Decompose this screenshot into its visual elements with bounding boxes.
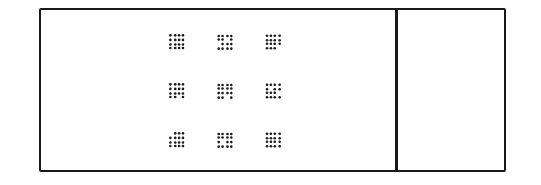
dot [174, 47, 177, 50]
dot [169, 83, 172, 86]
dot-pattern-r2-c0 [168, 131, 186, 149]
dot [266, 91, 269, 94]
dot [217, 92, 220, 95]
dot [266, 96, 269, 99]
dot [273, 47, 276, 50]
dot [226, 43, 229, 46]
dot [230, 84, 233, 87]
dot [278, 83, 281, 86]
dot-pattern-r0-c2 [264, 33, 282, 51]
dot [230, 47, 233, 50]
dot [221, 38, 224, 41]
dot [230, 145, 233, 148]
dot [174, 39, 177, 42]
dot [178, 43, 181, 46]
dot [226, 133, 229, 136]
dot [182, 96, 185, 99]
dot [182, 83, 185, 86]
dot [266, 39, 269, 42]
dot [182, 88, 185, 91]
dot [169, 96, 172, 99]
dot [266, 42, 269, 45]
dot [230, 43, 233, 46]
dot [226, 47, 229, 50]
dot [178, 132, 181, 135]
dot [217, 84, 220, 87]
dot [178, 88, 181, 91]
dot [270, 145, 273, 148]
dot [174, 141, 177, 144]
dot [273, 91, 276, 94]
dot [230, 96, 233, 99]
dot [266, 47, 269, 50]
dot [174, 92, 177, 95]
dot [217, 47, 220, 50]
dot-pattern-r1-c0 [168, 82, 186, 100]
dot [182, 137, 185, 140]
dot-pattern-r1-c1 [216, 82, 234, 100]
dot [278, 39, 281, 42]
dot [226, 35, 229, 38]
dot [273, 145, 276, 148]
dot [266, 83, 269, 86]
dot [221, 136, 224, 139]
dot [182, 145, 185, 148]
dot [178, 141, 181, 144]
dot [278, 34, 281, 37]
dot [182, 141, 185, 144]
dot [217, 145, 220, 148]
dot [226, 141, 229, 144]
dot [278, 140, 281, 143]
dot [273, 83, 276, 86]
dot [221, 47, 224, 50]
dot [217, 133, 220, 136]
dot [169, 92, 172, 95]
dot [182, 92, 185, 95]
dot [226, 87, 229, 90]
dot [169, 137, 172, 140]
dot [221, 96, 224, 99]
dot [230, 133, 233, 136]
dot [278, 88, 281, 91]
dot [221, 133, 224, 136]
dot [230, 35, 233, 38]
dot [182, 132, 185, 135]
dot [169, 88, 172, 91]
dot [230, 38, 233, 41]
dot [217, 141, 220, 144]
dot [278, 42, 281, 45]
dot [174, 43, 177, 46]
dot [221, 84, 224, 87]
dot [230, 141, 233, 144]
dot [182, 34, 185, 37]
dot [178, 39, 181, 42]
dot [174, 132, 177, 135]
dot [270, 42, 273, 45]
dot [266, 132, 269, 135]
dot [174, 34, 177, 37]
dot [217, 35, 220, 38]
dot [270, 137, 273, 140]
dot [273, 88, 276, 91]
dot [178, 47, 181, 50]
dot [226, 92, 229, 95]
dot [169, 34, 172, 37]
dot [226, 84, 229, 87]
dot [273, 34, 276, 37]
dot [221, 87, 224, 90]
dot [169, 145, 172, 148]
dot [270, 83, 273, 86]
dot [182, 47, 185, 50]
dot [174, 96, 177, 99]
dot [270, 91, 273, 94]
dot [273, 39, 276, 42]
dot [221, 43, 224, 46]
dot [226, 136, 229, 139]
dot [266, 88, 269, 91]
dot [169, 141, 172, 144]
dot [174, 88, 177, 91]
dot [270, 39, 273, 42]
dot [221, 145, 224, 148]
dot [270, 34, 273, 37]
dot [230, 92, 233, 95]
